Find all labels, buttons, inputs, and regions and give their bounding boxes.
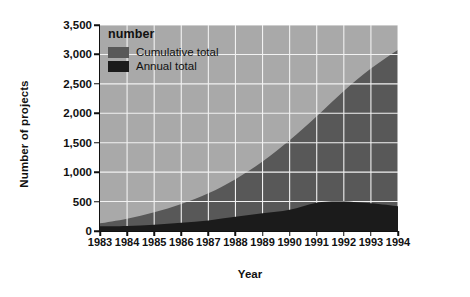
- y-tick-label: 1,000: [30, 166, 92, 178]
- legend-swatch-cumulative-total: [108, 47, 129, 58]
- x-tick-label: 1983: [88, 236, 112, 248]
- y-tick-label: 2,500: [30, 78, 92, 90]
- x-tick-label: 1993: [359, 236, 383, 248]
- x-tick-label: 1994: [386, 236, 410, 248]
- x-tick-label: 1987: [196, 236, 220, 248]
- legend-label-cumulative-total: Cumulative total: [136, 46, 218, 58]
- chart-figure: Number of projects Year 05001,0001,5002,…: [0, 0, 470, 297]
- y-tick-label: 3,500: [30, 19, 92, 31]
- x-tick-label: 1988: [223, 236, 247, 248]
- y-tick-label: 2,000: [30, 107, 92, 119]
- x-tick-label: 1986: [169, 236, 193, 248]
- x-tick-label: 1991: [304, 236, 328, 248]
- y-tick-label: 1,500: [30, 137, 92, 149]
- y-axis-title: Number of projects: [18, 34, 30, 234]
- x-tick-label: 1985: [142, 236, 166, 248]
- chart-legend: number Cumulative total Annual total: [108, 27, 233, 74]
- legend-title: number: [108, 27, 233, 41]
- x-tick-label: 1992: [332, 236, 356, 248]
- y-axis-tick-labels: 05001,0001,5002,0002,5003,0003,500: [30, 0, 92, 297]
- x-axis-title: Year: [100, 268, 400, 280]
- x-tick-label: 1984: [115, 236, 139, 248]
- y-tick-label: 500: [30, 196, 92, 208]
- y-tick-label: 0: [30, 225, 92, 237]
- legend-swatch-annual-total: [108, 61, 129, 72]
- x-tick-label: 1989: [250, 236, 274, 248]
- x-tick-label: 1990: [277, 236, 301, 248]
- legend-item-annual-total: Annual total: [108, 60, 233, 72]
- legend-item-cumulative-total: Cumulative total: [108, 46, 233, 58]
- legend-label-annual-total: Annual total: [136, 60, 197, 72]
- y-tick-label: 3,000: [30, 48, 92, 60]
